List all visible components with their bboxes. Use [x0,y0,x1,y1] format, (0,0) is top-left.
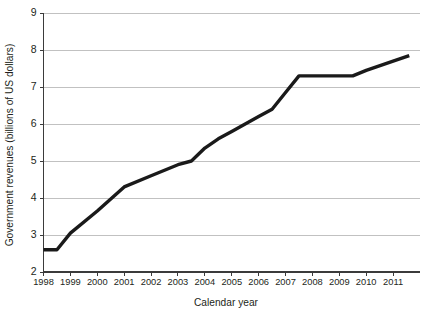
series-line-0 [44,56,410,250]
x-axis-title: Calendar year [194,297,259,308]
y-tick-label-9: 9 [31,6,37,18]
x-tick-label-2000: 2000 [87,277,108,287]
y-tick-label-6: 6 [31,117,37,129]
y-tick-label-7: 7 [31,80,37,92]
y-tick-label-4: 4 [31,191,37,203]
chart-canvas: 23456789 1998199920002001200220032004200… [0,0,431,314]
y-tick-label-5: 5 [31,154,37,166]
x-tick-label-2001: 2001 [114,277,135,287]
line-chart: 23456789 1998199920002001200220032004200… [0,0,431,314]
x-tick-label-2002: 2002 [141,277,162,287]
x-tick-label-1999: 1999 [60,277,81,287]
x-tick-label-2010: 2010 [356,277,377,287]
x-tick-label-2004: 2004 [195,277,216,287]
x-tick-label-1998: 1998 [33,277,54,287]
y-axis-title: Government revenues (billions of US doll… [4,44,15,247]
y-tick-label-2: 2 [31,265,37,277]
x-tick-label-2005: 2005 [221,277,242,287]
x-tick-label-2011: 2011 [383,277,403,287]
y-tick-label-3: 3 [31,228,37,240]
x-tick-label-2007: 2007 [275,277,296,287]
y-tick-label-8: 8 [31,43,37,55]
y-axis: 23456789 [31,6,44,277]
x-tick-label-2006: 2006 [248,277,269,287]
gridlines [44,13,421,272]
x-tick-label-2008: 2008 [302,277,323,287]
x-tick-label-2009: 2009 [329,277,350,287]
x-tick-label-2003: 2003 [168,277,189,287]
x-axis: 1998199920002001200220032004200520062007… [33,272,420,287]
data-series [44,56,410,250]
